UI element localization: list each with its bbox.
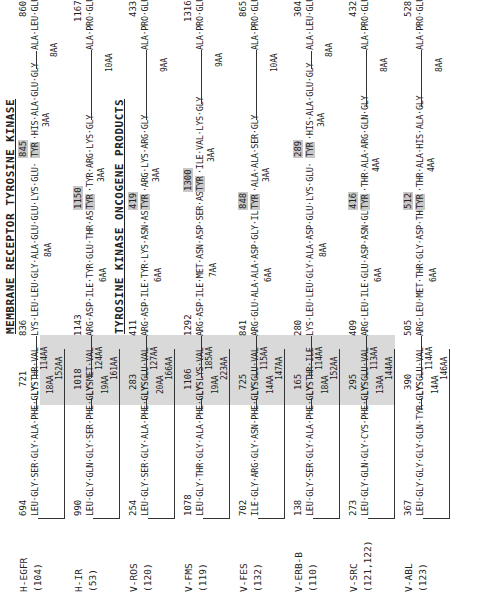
- after-tyr-sequence: ·HIS·ALA·GLU·GLY: [30, 63, 40, 140]
- reference: (119): [197, 563, 208, 592]
- start-sequence: LEU·GLY·SER·GLY·ALA·PHE·GLY·THR·ILE: [305, 347, 315, 516]
- span-aa-c: 147AA: [275, 357, 284, 380]
- tyr-residue: TYR: [415, 194, 425, 210]
- span-aa-c: 223AA: [220, 357, 229, 380]
- row-v-fes: V-FES (132) 702 ILE·GLY·ARG·GLY·ASN·PHE·…: [238, 0, 290, 602]
- span-aa-e: 4AA: [427, 158, 436, 172]
- start-sequence: LEU·GLY·GLY·GLY·GLN·TYR·GLY·GLU·VAL: [415, 347, 425, 516]
- reference: (123): [417, 563, 428, 592]
- mid-sequence: ARG·LEU·ILE·GLU·ASP·ASN·GLU·: [360, 201, 370, 336]
- mid-position: 841: [238, 320, 248, 336]
- lys-residue: LYS: [250, 382, 260, 396]
- end-sequence: ALA·PRO·GLU: [360, 0, 370, 50]
- span-aa-f: 8AA: [380, 58, 389, 72]
- span-aa-e: 3AA: [42, 113, 51, 127]
- kinase-alignment-diagram: MEMBRANE RECEPTOR TYROSINE KINASE TYROSI…: [0, 0, 481, 602]
- tyr-position: 512: [403, 192, 413, 210]
- reference: (53): [87, 569, 98, 592]
- span-aa-b: 114AA: [315, 347, 324, 370]
- span-aa-a: 18AA: [321, 376, 330, 394]
- protein-name: V-ABL: [403, 563, 414, 592]
- protein-name: V-FES: [238, 563, 249, 592]
- span-aa-b: 124AA: [95, 347, 104, 370]
- tyr-position: 416: [348, 192, 358, 210]
- row-v-erb-b: V-ERB-B (110) 138 LEU·GLY·SER·GLY·ALA·PH…: [293, 0, 345, 602]
- tyr-position: 848: [238, 192, 248, 210]
- start-sequence: LEU·GLY·SER·GLY·ALA·PHE·GLY·GLU·VAL: [140, 347, 150, 516]
- span-aa-a: 19AA: [101, 376, 110, 394]
- row-v-fms: V-FMS (119) 1078 LEU·GLY·THR·GLY·ALA·PHE…: [183, 0, 235, 602]
- span-aa-a: 19AA: [211, 376, 220, 394]
- after-tyr-sequence: ·TYR·ARG·LYS·GLY: [85, 115, 95, 192]
- mid-position: 409: [348, 320, 358, 336]
- tyr-residue: TYR: [30, 142, 40, 158]
- span-aa-f: 8AA: [50, 43, 59, 57]
- heading-membrane-receptor: MEMBRANE RECEPTOR TYROSINE KINASE: [4, 99, 17, 334]
- end-sequence: ALA·PRO·GLU: [195, 0, 205, 50]
- end-position: 860: [18, 1, 28, 17]
- end-position: 433: [128, 1, 138, 17]
- lys-residue: LYS: [305, 382, 315, 396]
- span-aa-d: 6AA: [264, 268, 273, 282]
- span-aa-d: 6AA: [154, 268, 163, 282]
- after-tyr-sequence: ·THR·ALA·ARG·GLN·GLY: [360, 96, 370, 192]
- lys-residue: LYS: [415, 382, 425, 396]
- row-v-abl: V-ABL (123) 367 LEU·GLY·GLY·GLY·GLN·TYR·…: [403, 0, 455, 602]
- tyr-position: 289: [293, 140, 303, 158]
- span-aa-e: 3AA: [207, 148, 216, 162]
- reference: (120): [142, 563, 153, 592]
- end-position: 1316: [183, 0, 193, 22]
- reference: (121,122): [362, 541, 373, 592]
- lys-residue: LYS: [85, 382, 95, 396]
- row-v-ros: V-ROS (120) 254 LEU·GLY·SER·GLY·ALA·PHE·…: [128, 0, 180, 602]
- end-sequence: ALA·PRO·GLU: [140, 0, 150, 50]
- span-aa-a: 20AA: [156, 376, 165, 394]
- lys-position: 165: [293, 374, 303, 390]
- span-aa-f: 10AA: [105, 54, 114, 72]
- start-position: 367: [403, 500, 413, 516]
- protein-name: V-ROS: [128, 563, 139, 592]
- span-aa-c: 144AA: [385, 357, 394, 380]
- mid-position: 1143: [73, 314, 83, 336]
- end-sequence: ALA·LEU·GLU: [30, 0, 40, 50]
- span-aa-b: 115AA: [260, 347, 269, 370]
- reference: (132): [252, 563, 263, 592]
- start-sequence: LEU·GLY·GLN·GLY·SER·PHE·GLY·MET·VAL: [85, 347, 95, 516]
- start-sequence: LEU·GLY·SER·GLY·ALA·PHE·GLY·THR·VAL: [30, 347, 40, 516]
- reference: (110): [307, 563, 318, 592]
- start-position: 702: [238, 500, 248, 516]
- lys-position: 725: [238, 374, 248, 390]
- start-position: 1078: [183, 494, 193, 516]
- lys-residue: LYS: [140, 382, 150, 396]
- span-aa-a: 14AA: [266, 376, 275, 394]
- span-aa-a: 18AA: [46, 376, 55, 394]
- end-sequence: ALA·PRO·GLU: [250, 0, 260, 50]
- mid-sequence: LYS·LEU·LEU·GLY·ALA·GLU·GLU·LYS·GLU·: [30, 163, 40, 336]
- end-position: 1167: [73, 0, 83, 22]
- lys-position: 295: [348, 374, 358, 390]
- protein-name: V-SRC: [348, 563, 359, 592]
- span-aa-d: 6AA: [429, 268, 438, 282]
- span-aa-b: 185AA: [205, 347, 214, 370]
- span-aa-c: 161AA: [110, 357, 119, 380]
- span-aa-e: 3AA: [97, 168, 106, 182]
- span-aa-d: 8AA: [44, 243, 53, 257]
- lys-position: 1018: [73, 368, 83, 390]
- end-sequence: ALA·PRO·GLU: [85, 0, 95, 50]
- span-aa-b: 114AA: [425, 347, 434, 370]
- tyr-residue: TYR: [250, 194, 260, 210]
- span-aa-f: 8AA: [435, 58, 444, 72]
- tyr-residue: TYR: [305, 142, 315, 158]
- span-aa-e: 3AA: [317, 113, 326, 127]
- tyr-residue: TYR: [195, 176, 205, 192]
- reference: (104): [32, 563, 43, 592]
- span-aa-e: 3AA: [152, 168, 161, 182]
- row-v-src: V-SRC (121,122) 273 LEU·GLY·GLN·GLY·CYS·…: [348, 0, 400, 602]
- span-aa-d: 6AA: [99, 268, 108, 282]
- tyr-position: 1150: [73, 186, 83, 210]
- after-tyr-sequence: ·ARG·LYS·ARG·GLY: [140, 115, 150, 192]
- end-position: 528: [403, 1, 413, 17]
- mid-sequence: LYS·LEU·LEU·GLY·ALA·ASP·GLU·LYS·GLU·: [305, 163, 315, 336]
- after-tyr-sequence: ·HIS·ALA·GLU·GLY: [305, 63, 315, 140]
- span-aa-f: 10AA: [270, 54, 279, 72]
